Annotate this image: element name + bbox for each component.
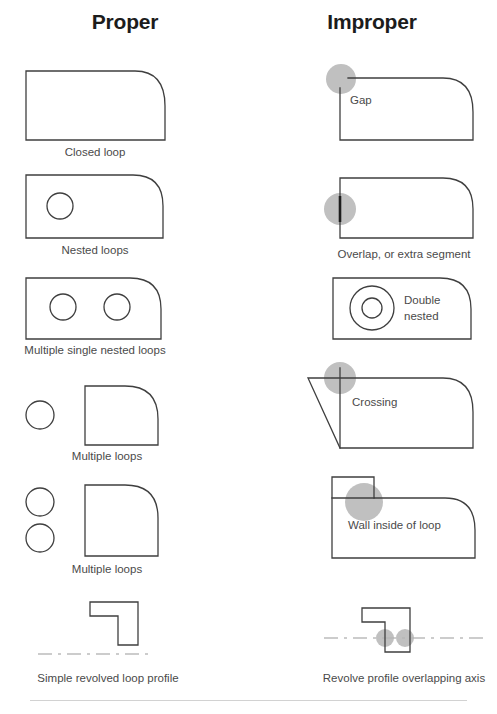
figure-crossing: Crossing <box>300 366 484 458</box>
separate-circle-top <box>26 488 54 516</box>
caption-simple-revolved-loop-profile: Simple revolved loop profile <box>37 672 178 686</box>
inline-label-crossing: Crossing <box>352 396 397 408</box>
gap-outline <box>340 78 473 140</box>
figure-nested-loops <box>25 174 175 240</box>
figure-multiple-single-nested-loops <box>25 277 175 341</box>
nested-loops-inner-circle <box>47 193 73 219</box>
caption-nested-loops: Nested loops <box>61 244 128 258</box>
figure-multiple-loops-two-circles <box>25 484 175 558</box>
caption-multiple-single-nested-loops: Multiple single nested loops <box>24 344 165 358</box>
figure-closed-loop <box>25 70 175 142</box>
figure-multiple-loops-one-circle <box>25 385 175 447</box>
highlight-circle-gap <box>326 64 356 94</box>
figure-double-nested: Double nested <box>332 277 484 341</box>
highlight-circle-wall <box>345 483 383 521</box>
double-nested-inner-circle <box>362 298 382 318</box>
separate-circle <box>26 401 54 429</box>
figure-gap: Gap <box>332 70 484 148</box>
highlight-circle-axis-right <box>396 629 414 647</box>
figure-wall-inside-of-loop: Wall inside of loop <box>322 474 488 564</box>
separate-circle-bottom <box>26 524 54 552</box>
caption-overlap: Overlap, or extra segment <box>338 248 471 262</box>
footer-divider <box>30 700 467 701</box>
figure-overlap <box>332 174 484 240</box>
inline-label-wall: Wall inside of loop <box>348 519 441 531</box>
caption-revolve-profile-overlapping-axis: Revolve profile overlapping axis <box>323 672 485 686</box>
double-nested-outline <box>333 278 471 339</box>
nested-circle-right <box>104 294 130 320</box>
multiple-single-nested-outline <box>26 278 161 339</box>
caption-multiple-loops-one-circle: Multiple loops <box>72 450 142 464</box>
revolved-profile-outline <box>90 602 138 645</box>
figure-revolve-profile-overlapping-axis <box>322 600 492 656</box>
caption-multiple-loops-two-circles: Multiple loops <box>72 563 142 577</box>
closed-loop-outline <box>26 71 165 140</box>
diagram-page: Proper Improper Closed loop Gap Nested l… <box>0 0 497 714</box>
inline-label-double-nested-line1: Double <box>404 294 440 306</box>
inline-label-double-nested-line2: nested <box>404 310 439 322</box>
double-nested-outer-circle <box>350 286 394 330</box>
nested-circle-left <box>50 294 76 320</box>
overlap-outline <box>340 178 473 238</box>
inline-label-gap: Gap <box>350 94 372 106</box>
caption-closed-loop: Closed loop <box>65 146 126 160</box>
column-header-proper: Proper <box>0 10 250 34</box>
multiple-loops-outline-2 <box>85 485 158 556</box>
figure-simple-revolved-loop-profile <box>30 600 190 652</box>
column-header-improper: Improper <box>247 10 497 34</box>
multiple-loops-outline <box>85 386 158 445</box>
